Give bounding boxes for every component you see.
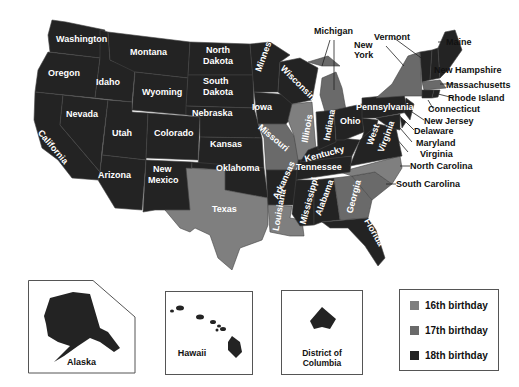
legend-swatch-16th — [410, 301, 419, 310]
hawaii-shape — [166, 292, 252, 374]
label-new-mexico-2: Mexico — [148, 175, 179, 185]
state-massachusetts — [422, 80, 446, 90]
label-north-dakota-2: Dakota — [203, 56, 234, 66]
legend-swatch-18th — [410, 351, 419, 360]
label-oklahoma: Oklahoma — [216, 163, 261, 173]
label-vermont: Vermont — [374, 32, 410, 42]
label-dc: District of Columbia — [282, 348, 362, 368]
label-michigan: Michigan — [314, 26, 353, 36]
legend-label-16th: 16th birthday — [425, 300, 488, 311]
label-nebraska: Nebraska — [192, 108, 234, 118]
label-alaska: Alaska — [28, 357, 135, 367]
legend-item-17th: 17th birthday — [410, 325, 488, 336]
legend-label-18th: 18th birthday — [425, 350, 488, 361]
label-tennessee: Tennessee — [296, 162, 342, 172]
legend-item-16th: 16th birthday — [410, 300, 488, 311]
state-delaware — [400, 116, 406, 128]
label-delaware: Delaware — [414, 126, 454, 136]
inset-alaska: Alaska — [28, 280, 135, 373]
label-oregon: Oregon — [48, 68, 80, 78]
state-arizona — [98, 155, 146, 210]
label-utah: Utah — [112, 128, 132, 138]
label-south-carolina: South Carolina — [396, 179, 461, 189]
label-new-york-2: York — [354, 50, 374, 60]
label-rhode-island: Rhode Island — [448, 93, 505, 103]
label-colorado: Colorado — [154, 128, 194, 138]
label-north-dakota-1: North — [206, 45, 230, 55]
legend-swatch-17th — [410, 326, 419, 335]
label-pennsylvania: Pennsylvania — [356, 102, 415, 112]
label-wyoming: Wyoming — [142, 87, 182, 97]
label-south-dakota-1: South — [203, 76, 229, 86]
label-texas: Texas — [212, 204, 237, 214]
label-washington: Washington — [56, 34, 107, 44]
legend-label-17th: 17th birthday — [425, 325, 488, 336]
inset-dc: District of Columbia — [281, 290, 363, 375]
legend: 16th birthday 17th birthday 18th birthda… — [399, 289, 499, 371]
label-new-jersey: New Jersey — [424, 116, 474, 126]
label-idaho: Idaho — [96, 77, 121, 87]
label-maine: Maine — [446, 37, 472, 47]
label-nevada: Nevada — [66, 109, 99, 119]
label-ohio: Ohio — [340, 116, 361, 126]
label-kansas: Kansas — [210, 139, 242, 149]
label-maryland: Maryland — [416, 138, 456, 148]
inset-hawaii: Hawaii — [165, 291, 253, 375]
label-new-mexico-1: New — [153, 164, 173, 174]
label-arizona: Arizona — [98, 170, 132, 180]
label-new-hampshire: New Hampshire — [434, 65, 502, 75]
label-massachusetts: Massachusetts — [446, 80, 511, 90]
state-new-york — [376, 52, 422, 98]
label-iowa: Iowa — [252, 102, 273, 112]
us-map: Washington Oregon California Nevada Idah… — [0, 0, 519, 270]
label-montana: Montana — [130, 47, 168, 57]
label-connecticut: Connecticut — [428, 104, 480, 114]
label-new-york-1: New — [354, 40, 374, 50]
label-hawaii: Hawaii — [132, 348, 252, 358]
label-south-dakota-2: Dakota — [203, 87, 234, 97]
label-virginia: Virginia — [420, 149, 454, 159]
legend-item-18th: 18th birthday — [410, 350, 488, 361]
label-north-carolina: North Carolina — [410, 161, 473, 171]
